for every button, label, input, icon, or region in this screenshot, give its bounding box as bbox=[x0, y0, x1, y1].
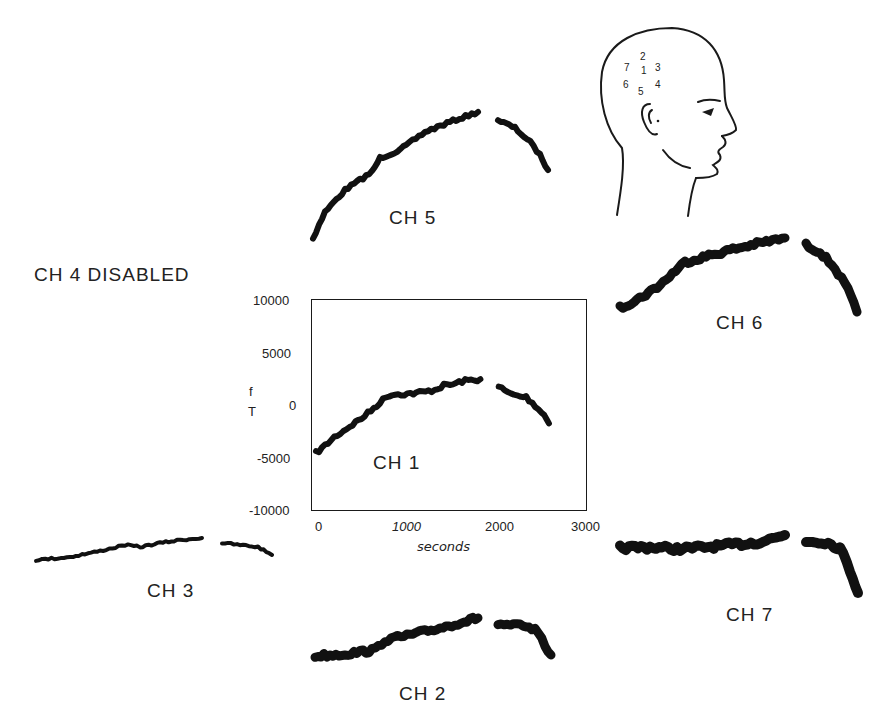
xtick-1000: 1000 bbox=[392, 519, 421, 534]
ytick-neg5000: -5000 bbox=[257, 451, 290, 466]
ylabel-T: T bbox=[248, 404, 256, 419]
ch1-plot-frame bbox=[311, 299, 587, 511]
ch7-trace-segment-1 bbox=[620, 535, 785, 551]
ch2-trace-segment-2 bbox=[498, 624, 551, 655]
ytick-neg10000: -10000 bbox=[249, 503, 289, 518]
ch5-label: CH 5 bbox=[389, 207, 436, 229]
ch7-trace-segment-2 bbox=[806, 542, 858, 593]
ch3-trace-segment-1 bbox=[36, 538, 202, 561]
x-axis-label: seconds bbox=[417, 539, 470, 554]
ch6-trace-segment-2 bbox=[806, 243, 857, 312]
xtick-3000: 3000 bbox=[571, 519, 600, 534]
ch3-trace-segment-2 bbox=[222, 543, 272, 555]
ch2-label: CH 2 bbox=[399, 683, 446, 705]
xtick-0: 0 bbox=[315, 519, 322, 534]
ch3-label: CH 3 bbox=[147, 580, 194, 602]
ch5-trace-segment-2 bbox=[498, 120, 548, 170]
ch6-trace-segment-1 bbox=[620, 238, 785, 308]
ch4-disabled-label: CH 4 DISABLED bbox=[34, 264, 190, 286]
ytick-5000: 5000 bbox=[262, 346, 291, 361]
ch7-label: CH 7 bbox=[726, 604, 773, 626]
ch1-label: CH 1 bbox=[373, 452, 420, 474]
ylabel-f: f bbox=[249, 384, 253, 399]
ch6-label: CH 6 bbox=[716, 312, 763, 334]
xtick-2000: 2000 bbox=[485, 519, 514, 534]
ytick-10000: 10000 bbox=[253, 293, 289, 308]
ytick-0: 0 bbox=[289, 398, 296, 413]
ch2-trace-segment-1 bbox=[315, 617, 478, 657]
